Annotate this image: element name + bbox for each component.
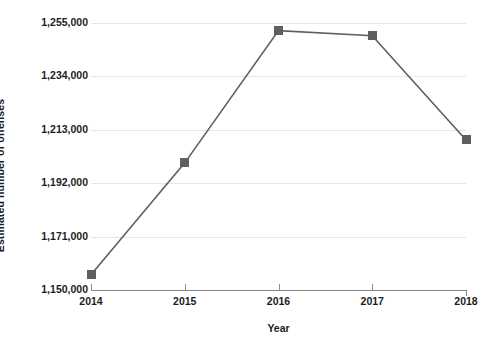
x-axis-tick-label: 2018 [436,295,489,307]
series-line-offenses [91,31,466,275]
data-point-marker [274,26,283,35]
x-axis-tick-label: 2014 [61,295,121,307]
series-markers-group [87,26,471,279]
x-axis-tick-label: 2017 [342,295,402,307]
data-point-marker [368,31,377,40]
x-axis-tick-label: 2015 [155,295,215,307]
x-axis-tick-label: 2016 [249,295,309,307]
data-point-marker [87,270,96,279]
data-point-marker [180,158,189,167]
line-chart: Estimated number of offenses 1,255,0001,… [0,0,489,351]
data-point-marker [462,135,471,144]
